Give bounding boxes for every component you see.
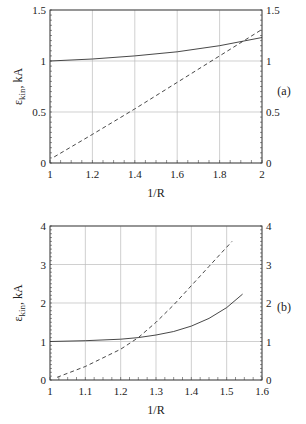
panel-label: (a) <box>277 84 290 98</box>
x-tick-label: 1.2 <box>114 385 128 397</box>
y-tick-label-right: 0 <box>266 157 272 169</box>
figure: 11.21.41.61.82000.50.5111.51.51/Rεkin, k… <box>0 0 306 424</box>
y-tick-label-right: 0.5 <box>266 106 280 118</box>
y-tick-label-right: 4 <box>266 220 272 232</box>
x-tick-label: 1.8 <box>213 168 227 180</box>
x-axis-label: 1/R <box>147 186 164 200</box>
series-dashed-line <box>54 29 262 156</box>
x-tick-label: 1.3 <box>149 385 163 397</box>
x-tick-label: 1.4 <box>128 168 142 180</box>
series-dashed-line <box>57 241 232 377</box>
y-axis-label: εkin, kA <box>11 68 27 106</box>
x-tick-label: 1.6 <box>255 385 269 397</box>
y-tick-label: 1 <box>41 336 47 348</box>
plot-frame <box>50 10 262 163</box>
y-tick-label: 1.5 <box>32 4 46 16</box>
x-tick-label: 1.5 <box>220 385 234 397</box>
y-tick-label: 0 <box>41 157 47 169</box>
x-tick-label: 1 <box>47 385 53 397</box>
x-tick-label: 1 <box>47 168 53 180</box>
x-tick-label: 2 <box>259 168 265 180</box>
x-tick-label: 1.4 <box>184 385 198 397</box>
y-tick-label: 2 <box>41 297 47 309</box>
y-tick-label-right: 0 <box>266 374 272 386</box>
y-tick-label: 1 <box>41 55 47 67</box>
y-tick-label-right: 1 <box>266 55 272 67</box>
panel-label: (b) <box>277 300 291 314</box>
y-tick-label: 0.5 <box>32 106 46 118</box>
y-tick-label: 4 <box>41 220 47 232</box>
y-tick-label-right: 3 <box>266 259 272 271</box>
x-tick-label: 1.6 <box>170 168 184 180</box>
chart-panel-a: 11.21.41.61.82000.50.5111.51.51/Rεkin, k… <box>11 4 291 200</box>
series-solid-line <box>50 294 243 341</box>
x-tick-label: 1.2 <box>86 168 100 180</box>
y-tick-label-right: 1 <box>266 336 272 348</box>
y-tick-label-right: 2 <box>266 297 272 309</box>
chart-panel-b: 11.11.21.31.41.51.600112233441/Rεkin, kA… <box>11 220 291 417</box>
x-tick-label: 1.1 <box>78 385 92 397</box>
y-axis-label: εkin, kA <box>11 284 27 322</box>
y-tick-label: 0 <box>41 374 47 386</box>
x-axis-label: 1/R <box>147 403 164 417</box>
y-tick-label-right: 1.5 <box>266 4 280 16</box>
y-tick-label: 3 <box>41 259 47 271</box>
